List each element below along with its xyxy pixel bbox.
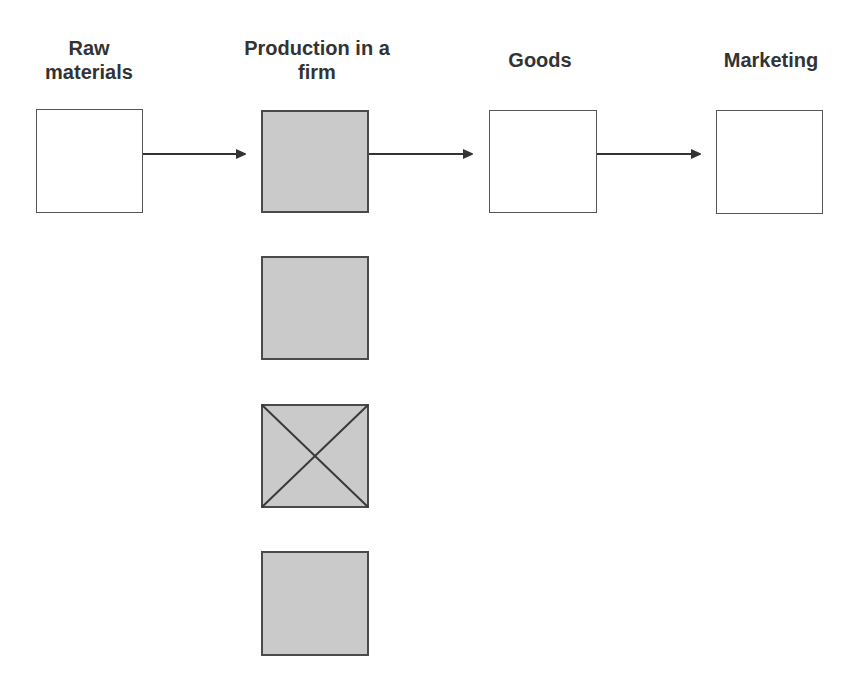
production-box <box>261 110 369 213</box>
label-raw-materials: Raw materials <box>14 36 164 84</box>
production-stack-box-3 <box>261 551 369 656</box>
marketing-box <box>716 110 823 214</box>
connectors-layer <box>0 0 851 689</box>
production-stack-box-1 <box>261 256 369 360</box>
raw-materials-box <box>36 109 143 213</box>
label-marketing: Marketing <box>696 48 846 72</box>
production-stack-box-2-crossed <box>261 404 369 508</box>
label-goods: Goods <box>475 48 605 72</box>
label-production-in-a-firm: Production in a firm <box>222 36 412 84</box>
goods-box <box>489 110 597 213</box>
